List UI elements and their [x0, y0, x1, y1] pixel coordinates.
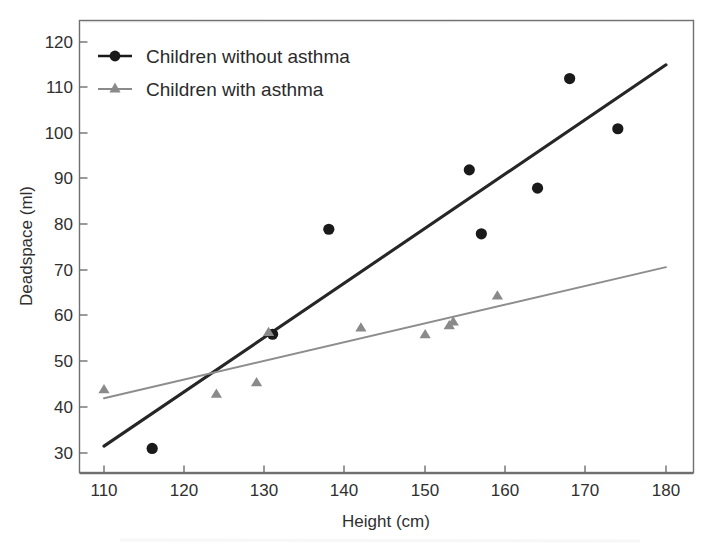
data-point: [492, 290, 503, 299]
x-tick-180: 180: [652, 466, 680, 501]
y-tick-90: 90: [54, 169, 87, 188]
data-point: [323, 224, 334, 235]
legend: Children without asthma Children with as…: [98, 46, 350, 100]
y-axis-title: Deadspace (ml): [17, 186, 36, 306]
x-axis-ticks: 110 120 130 140 150 160 170 180: [90, 466, 680, 501]
data-layer: [98, 65, 666, 454]
x-tick-label: 160: [491, 481, 519, 500]
y-tick-label: 70: [54, 261, 73, 280]
y-tick-label: 30: [54, 444, 73, 463]
data-point: [98, 384, 109, 393]
x-tick-label: 150: [411, 481, 439, 500]
y-tick-label: 40: [54, 398, 73, 417]
data-point: [420, 329, 431, 338]
y-tick-label: 110: [46, 78, 73, 97]
y-tick-80: 80: [54, 215, 87, 234]
y-tick-label: 100: [45, 124, 73, 143]
x-axis-title: Height (cm): [342, 512, 430, 531]
legend-label: Children without asthma: [146, 46, 350, 67]
data-point: [355, 322, 366, 331]
triangle-marker-icon: [109, 83, 120, 93]
y-tick-40: 40: [54, 398, 87, 417]
y-tick-label: 90: [54, 169, 73, 188]
circle-marker-icon: [110, 51, 121, 62]
y-tick-60: 60: [54, 306, 87, 325]
data-point: [476, 228, 487, 239]
x-tick-110: 110: [90, 466, 117, 501]
data-point: [612, 123, 623, 134]
x-tick-label: 140: [330, 481, 358, 500]
y-tick-110: 110: [46, 78, 88, 97]
y-tick-label: 60: [54, 306, 73, 325]
regression-line: [104, 267, 666, 398]
x-tick-160: 160: [491, 466, 519, 501]
y-tick-120: 120: [45, 33, 88, 52]
legend-label: Children with asthma: [146, 79, 324, 100]
legend-item-with-asthma[interactable]: Children with asthma: [98, 79, 324, 100]
y-tick-100: 100: [45, 124, 88, 143]
y-tick-label: 80: [54, 215, 73, 234]
x-tick-label: 170: [571, 481, 599, 500]
y-tick-50: 50: [54, 352, 87, 371]
series-without-asthma: [104, 65, 666, 454]
data-point: [251, 377, 262, 386]
scatter-plot-figure: 30 40 50 60 70 80 90 100 110 120 110 120…: [0, 0, 716, 558]
legend-item-without-asthma[interactable]: Children without asthma: [98, 46, 350, 67]
x-tick-140: 140: [330, 466, 358, 501]
y-tick-70: 70: [54, 261, 87, 280]
y-tick-label: 120: [45, 33, 73, 52]
data-point: [147, 443, 158, 454]
y-tick-30: 30: [54, 444, 87, 463]
x-tick-label: 120: [170, 481, 198, 500]
x-tick-120: 120: [170, 466, 198, 501]
data-point: [464, 164, 475, 175]
data-point: [211, 388, 222, 397]
plot-canvas: 30 40 50 60 70 80 90 100 110 120 110 120…: [0, 0, 716, 558]
data-point: [532, 183, 543, 194]
x-tick-130: 130: [250, 466, 278, 501]
y-axis-ticks: 30 40 50 60 70 80 90 100 110 120: [45, 33, 88, 463]
x-tick-150: 150: [411, 466, 439, 501]
x-tick-label: 110: [90, 481, 117, 500]
x-tick-label: 130: [250, 481, 278, 500]
data-point: [564, 73, 575, 84]
x-tick-170: 170: [571, 466, 599, 501]
series-with-asthma: [98, 267, 666, 398]
y-tick-label: 50: [54, 352, 73, 371]
regression-line: [104, 65, 666, 446]
x-tick-label: 180: [652, 481, 680, 500]
